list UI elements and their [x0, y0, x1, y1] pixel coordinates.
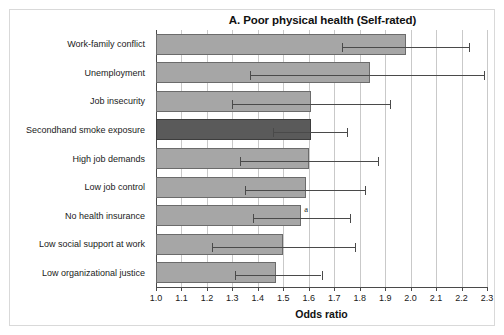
error-bar-cap-high	[350, 214, 351, 223]
category-label: Work-family conflict	[67, 39, 145, 49]
error-bar-line	[250, 75, 484, 76]
error-bar-cap-high	[378, 157, 379, 166]
bar[interactable]	[156, 62, 370, 83]
category-label: High job demands	[72, 154, 145, 164]
figure-container: A. Poor physical health (Self-rated) Wor…	[0, 0, 504, 335]
bar-row[interactable]	[156, 262, 487, 283]
error-bar-line	[240, 161, 377, 162]
x-tick	[283, 287, 284, 291]
error-bar-cap-high	[365, 186, 366, 195]
bar-row[interactable]	[156, 34, 487, 55]
error-bar-cap-low	[232, 100, 233, 109]
error-bar-cap-high	[390, 100, 391, 109]
bar-row[interactable]: a	[156, 205, 487, 226]
bar-row[interactable]	[156, 177, 487, 198]
error-bar-cap-high	[469, 43, 470, 52]
x-tick	[181, 287, 182, 291]
bar[interactable]	[156, 177, 306, 198]
x-tick	[360, 287, 361, 291]
error-bar-line	[245, 190, 365, 191]
error-bar-line	[273, 132, 347, 133]
bar[interactable]	[156, 119, 311, 140]
bar-row[interactable]	[156, 234, 487, 255]
x-axis-line	[156, 287, 487, 288]
x-tick	[385, 287, 386, 291]
bar[interactable]	[156, 205, 301, 226]
gridline	[487, 30, 488, 287]
error-bar-cap-low	[342, 43, 343, 52]
error-bar-line	[253, 218, 350, 219]
error-bar-cap-high	[355, 243, 356, 252]
error-bar-line	[212, 247, 355, 248]
category-label: Low job control	[84, 182, 145, 192]
bar[interactable]	[156, 34, 406, 55]
bar-row[interactable]	[156, 62, 487, 83]
bar-row[interactable]	[156, 91, 487, 112]
bar-row[interactable]	[156, 148, 487, 169]
x-tick-label: 2.3	[472, 293, 502, 303]
bar[interactable]	[156, 234, 283, 255]
category-axis-labels: Work-family conflictUnemploymentJob inse…	[0, 30, 151, 287]
x-axis-label: Odds ratio	[156, 308, 487, 320]
error-bar-cap-low	[235, 271, 236, 280]
x-tick	[258, 287, 259, 291]
category-label: Unemployment	[84, 68, 145, 78]
error-bar-cap-high	[347, 128, 348, 137]
x-tick	[309, 287, 310, 291]
category-label: No health insurance	[65, 211, 145, 221]
x-tick	[436, 287, 437, 291]
x-tick	[232, 287, 233, 291]
bar[interactable]	[156, 262, 276, 283]
x-tick	[156, 287, 157, 291]
error-bar-cap-low	[240, 157, 241, 166]
error-bar-line	[235, 275, 322, 276]
bar[interactable]	[156, 91, 311, 112]
error-bar-line	[342, 47, 469, 48]
category-label: Low social support at work	[39, 239, 145, 249]
bar[interactable]	[156, 148, 309, 169]
error-bar-cap-high	[322, 271, 323, 280]
error-bar-cap-high	[484, 71, 485, 80]
x-tick	[487, 287, 488, 291]
error-bar-cap-low	[245, 186, 246, 195]
error-bar-line	[232, 104, 390, 105]
x-tick	[411, 287, 412, 291]
bar-row[interactable]	[156, 119, 487, 140]
x-tick	[462, 287, 463, 291]
x-tick	[207, 287, 208, 291]
category-label: Low organizational justice	[42, 268, 145, 278]
error-bar-cap-low	[253, 214, 254, 223]
category-label: Secondhand smoke exposure	[26, 125, 145, 135]
category-label: Job insecurity	[90, 96, 145, 106]
x-tick	[334, 287, 335, 291]
bar-footnote-marker: a	[304, 204, 308, 214]
chart-title: A. Poor physical health (Self-rated)	[150, 14, 495, 26]
plot-area: 1.01.11.21.31.41.51.61.71.81.92.02.12.22…	[156, 30, 487, 287]
error-bar-cap-low	[212, 243, 213, 252]
error-bar-cap-low	[273, 128, 274, 137]
error-bar-cap-low	[250, 71, 251, 80]
